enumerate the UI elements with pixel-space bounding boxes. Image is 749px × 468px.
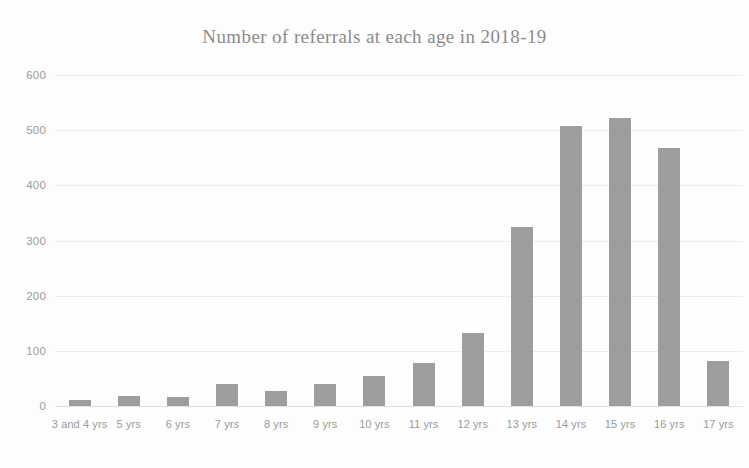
bar bbox=[167, 397, 189, 406]
y-axis-tick-label: 300 bbox=[0, 235, 46, 247]
bar bbox=[462, 333, 484, 406]
chart-title: Number of referrals at each age in 2018-… bbox=[0, 26, 749, 48]
bar bbox=[609, 118, 631, 406]
plot-area bbox=[55, 75, 743, 406]
x-axis-tick-label: 15 yrs bbox=[592, 418, 648, 431]
bar bbox=[413, 363, 435, 406]
y-axis-tick-label: 500 bbox=[0, 124, 46, 136]
bar bbox=[511, 227, 533, 406]
bar bbox=[314, 384, 336, 406]
x-axis-tick-label: 10 yrs bbox=[346, 418, 402, 431]
x-axis-tick-label: 3 and 4 yrs bbox=[52, 418, 108, 431]
gridline bbox=[55, 241, 743, 242]
gridline bbox=[55, 130, 743, 131]
x-axis-tick-label: 9 yrs bbox=[297, 418, 353, 431]
y-axis-tick-label: 200 bbox=[0, 290, 46, 302]
y-axis-tick-label: 600 bbox=[0, 69, 46, 81]
x-axis-tick-label: 11 yrs bbox=[396, 418, 452, 431]
bar-chart-figure: Number of referrals at each age in 2018-… bbox=[0, 0, 749, 468]
bar bbox=[560, 126, 582, 406]
bar bbox=[363, 376, 385, 406]
x-axis-tick-label: 12 yrs bbox=[445, 418, 501, 431]
y-axis: 0100200300400500600 bbox=[0, 75, 46, 406]
gridline bbox=[55, 185, 743, 186]
x-axis-tick-label: 8 yrs bbox=[248, 418, 304, 431]
bar bbox=[265, 391, 287, 406]
bar bbox=[69, 400, 91, 406]
y-axis-tick-label: 100 bbox=[0, 345, 46, 357]
x-axis: 3 and 4 yrs5 yrs6 yrs7 yrs8 yrs9 yrs10 y… bbox=[55, 410, 743, 466]
x-axis-tick-label: 17 yrs bbox=[690, 418, 746, 431]
gridline bbox=[55, 75, 743, 76]
x-axis-tick-label: 5 yrs bbox=[101, 418, 157, 431]
bar bbox=[216, 384, 238, 406]
bar bbox=[658, 148, 680, 406]
x-axis-tick-label: 16 yrs bbox=[641, 418, 697, 431]
bar bbox=[707, 361, 729, 406]
axis-baseline bbox=[55, 406, 743, 407]
x-axis-tick-label: 6 yrs bbox=[150, 418, 206, 431]
y-axis-tick-label: 0 bbox=[0, 400, 46, 412]
x-axis-tick-label: 7 yrs bbox=[199, 418, 255, 431]
bar bbox=[118, 396, 140, 406]
gridline bbox=[55, 351, 743, 352]
gridline bbox=[55, 296, 743, 297]
x-axis-tick-label: 13 yrs bbox=[494, 418, 550, 431]
x-axis-tick-label: 14 yrs bbox=[543, 418, 599, 431]
y-axis-tick-label: 400 bbox=[0, 179, 46, 191]
